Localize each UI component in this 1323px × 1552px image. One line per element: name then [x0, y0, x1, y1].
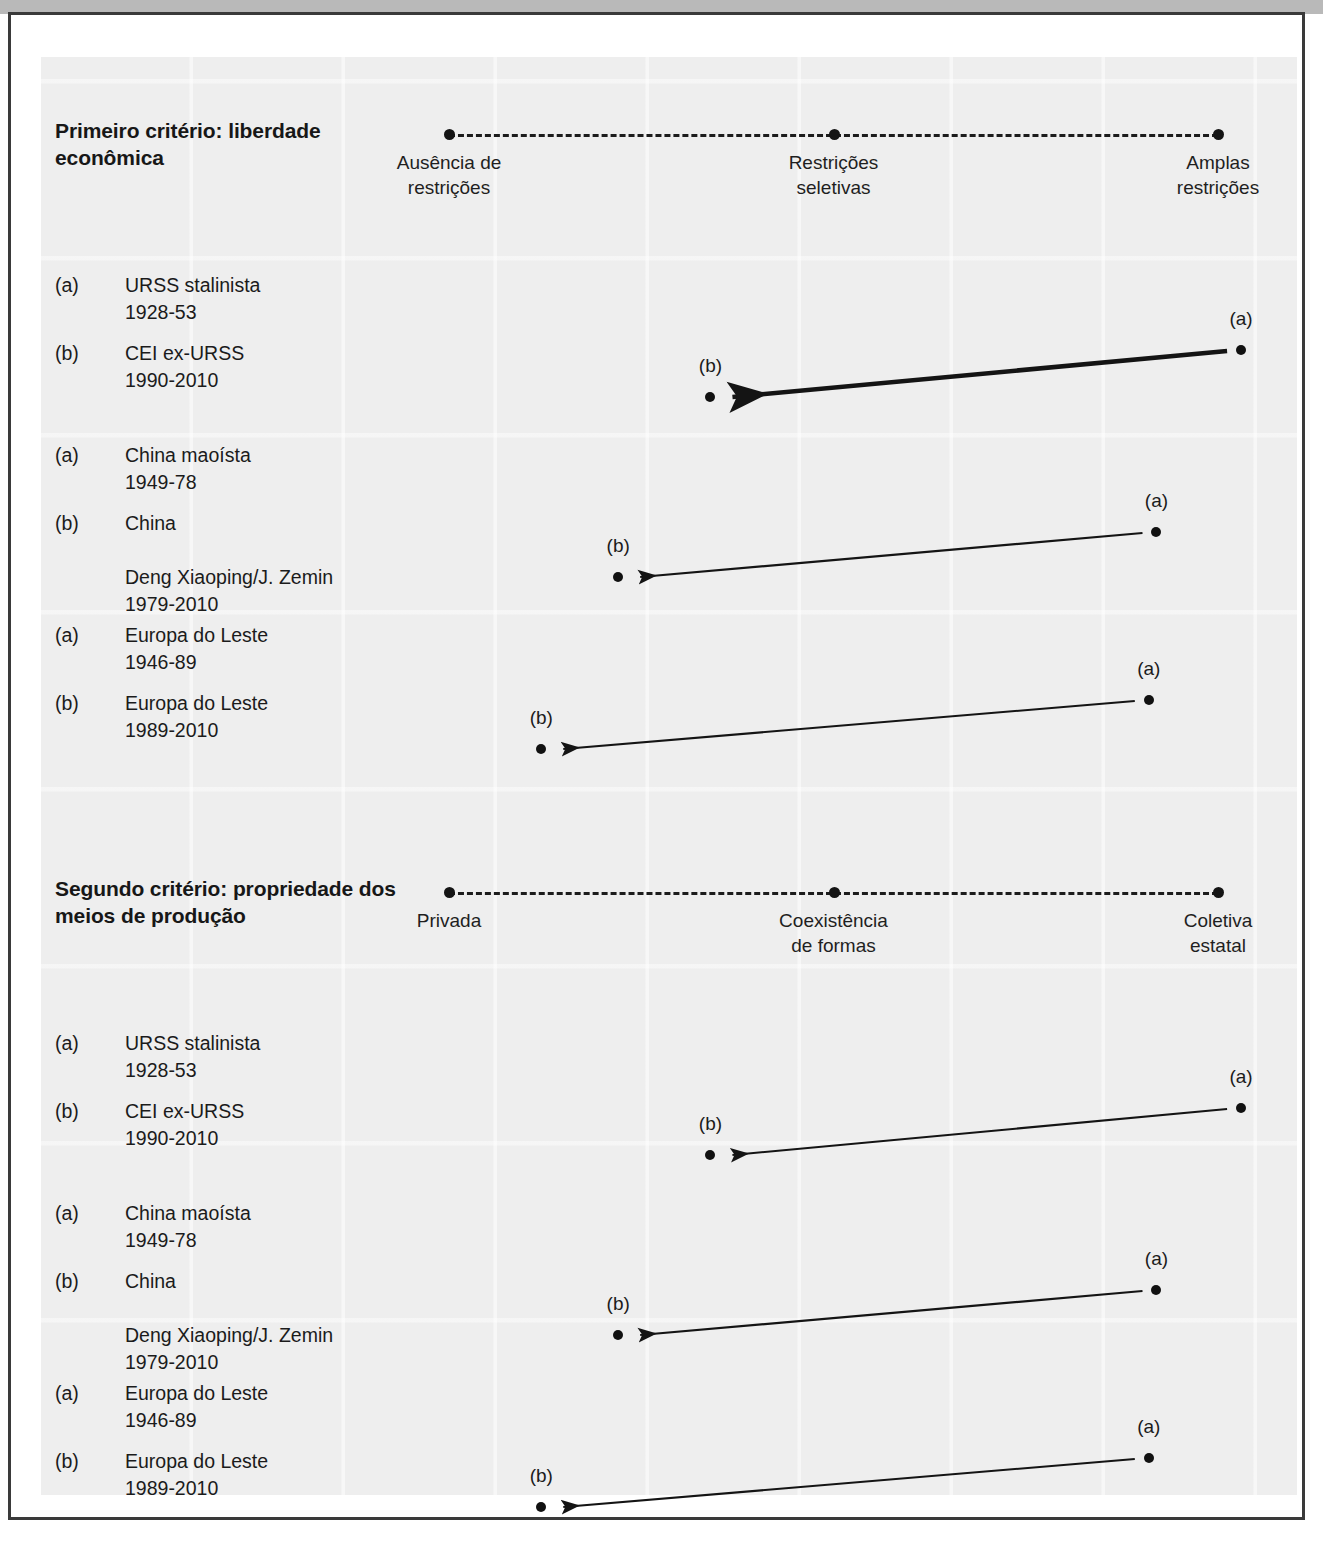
marker-dot-to [705, 1150, 715, 1160]
scale-tick-dot-0 [444, 887, 455, 898]
transition-arrow [563, 701, 1135, 749]
scale-tick-dot-2 [1213, 887, 1224, 898]
transition-arrow [732, 351, 1227, 397]
list-item-tag: (a) [55, 1200, 107, 1227]
marker-label-from: (a) [1145, 490, 1168, 512]
scale-tick-dot-1 [829, 887, 840, 898]
list-item-text: China Deng Xiaoping/J. Zemin 1979-2010 [125, 510, 333, 618]
marker-label-to: (b) [607, 535, 630, 557]
list-item-tag: (b) [55, 340, 107, 367]
marker-label-to: (b) [530, 1465, 553, 1487]
marker-label-to: (b) [607, 1293, 630, 1315]
marker-dot-to [536, 1502, 546, 1512]
list-item-tag: (b) [55, 1098, 107, 1125]
list-item-tag: (a) [55, 272, 107, 299]
marker-dot-from [1236, 1103, 1246, 1113]
marker-dot-from [1151, 1285, 1161, 1295]
marker-dot-to [613, 572, 623, 582]
page-frame: Primeiro critério: liberdade econômicaAu… [8, 12, 1305, 1520]
list-item-text: China maoísta 1949-78 [125, 1200, 251, 1254]
scale-tick-label-2: Amplas restrições [1177, 150, 1259, 200]
scale-tick-label-2: Coletiva estatal [1184, 908, 1253, 958]
transition-arrow [640, 533, 1142, 577]
list-item-tag: (b) [55, 510, 107, 537]
list-item-text: China maoísta 1949-78 [125, 442, 251, 496]
marker-label-from: (a) [1229, 1066, 1252, 1088]
list-item-tag: (a) [55, 1030, 107, 1057]
list-item-text: Europa do Leste 1946-89 [125, 622, 268, 676]
list-item-text: CEI ex-URSS 1990-2010 [125, 340, 244, 394]
marker-label-to: (b) [699, 1113, 722, 1135]
marker-label-to: (b) [530, 707, 553, 729]
list-item-tag: (a) [55, 442, 107, 469]
marker-dot-from [1151, 527, 1161, 537]
scale-tick-label-0: Ausência de restrições [397, 150, 502, 200]
transition-arrow [563, 1459, 1135, 1507]
scale-tick-dot-0 [444, 129, 455, 140]
marker-label-to: (b) [699, 355, 722, 377]
list-item-tag: (a) [55, 622, 107, 649]
scale-tick-label-1: Coexistência de formas [779, 908, 888, 958]
marker-dot-to [613, 1330, 623, 1340]
transition-arrow [640, 1291, 1142, 1335]
marker-label-from: (a) [1229, 308, 1252, 330]
scale-tick-dot-1 [829, 129, 840, 140]
marker-dot-from [1236, 345, 1246, 355]
figure-panel: Primeiro critério: liberdade econômicaAu… [41, 57, 1297, 1495]
list-item-text: Europa do Leste 1946-89 [125, 1380, 268, 1434]
list-item-text: URSS stalinista 1928-53 [125, 1030, 260, 1084]
list-item-text: Europa do Leste 1989-2010 [125, 690, 268, 744]
list-item-text: Europa do Leste 1989-2010 [125, 1448, 268, 1502]
marker-label-from: (a) [1137, 1416, 1160, 1438]
scale-tick-label-0: Privada [417, 908, 481, 933]
marker-dot-from [1144, 1453, 1154, 1463]
list-item-tag: (b) [55, 1268, 107, 1295]
scale-tick-dot-2 [1213, 129, 1224, 140]
list-item-tag: (a) [55, 1380, 107, 1407]
list-item-tag: (b) [55, 1448, 107, 1475]
marker-dot-from [1144, 695, 1154, 705]
list-item-text: URSS stalinista 1928-53 [125, 272, 260, 326]
list-item-text: CEI ex-URSS 1990-2010 [125, 1098, 244, 1152]
marker-dot-to [705, 392, 715, 402]
marker-label-from: (a) [1145, 1248, 1168, 1270]
marker-dot-to [536, 744, 546, 754]
list-item-text: China Deng Xiaoping/J. Zemin 1979-2010 [125, 1268, 333, 1376]
scale-criterio-1: Ausência de restriçõesRestrições seletiv… [41, 134, 1297, 204]
scale-tick-label-1: Restrições seletivas [789, 150, 879, 200]
scale-criterio-2: PrivadaCoexistência de formasColetiva es… [41, 892, 1297, 962]
list-item-tag: (b) [55, 690, 107, 717]
marker-label-from: (a) [1137, 658, 1160, 680]
transition-arrow [732, 1109, 1227, 1155]
figure-content: Primeiro critério: liberdade econômicaAu… [41, 57, 1297, 1495]
